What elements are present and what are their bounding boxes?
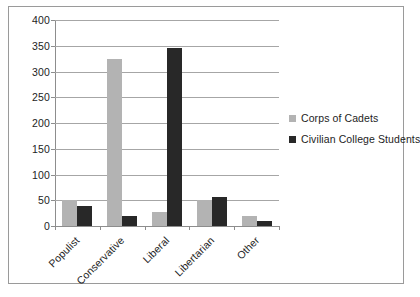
bar-group: [100, 20, 145, 226]
legend-label: Civilian College Students: [301, 133, 420, 145]
legend-label: Corps of Cadets: [301, 112, 378, 124]
y-axis-tick-label: 0: [44, 220, 50, 232]
bar[interactable]: [77, 206, 92, 226]
y-axis-tick-label: 250: [32, 91, 50, 103]
y-axis-tick-label: 300: [32, 66, 50, 78]
y-axis-tick-label: 50: [38, 194, 50, 206]
y-axis-tick-label: 150: [32, 143, 50, 155]
x-axis-tick-mark: [145, 226, 146, 230]
bar-group: [189, 20, 234, 226]
bar-group: [234, 20, 279, 226]
plot-wrapper: 050100150200250300350400 PopulistConserv…: [9, 7, 403, 283]
bar-group: [145, 20, 190, 226]
bar[interactable]: [62, 200, 77, 226]
y-axis-tick-label: 100: [32, 169, 50, 181]
plot-area: [55, 20, 279, 226]
bar[interactable]: [197, 200, 212, 226]
bar[interactable]: [122, 216, 137, 226]
bar[interactable]: [152, 212, 167, 226]
x-axis-category-label: Libertarian: [172, 234, 216, 278]
legend-item[interactable]: Civilian College Students: [289, 133, 405, 145]
x-axis-tick-mark: [279, 226, 280, 230]
x-axis-category-label: Conservative: [74, 234, 127, 287]
gridline: [55, 226, 279, 227]
bar[interactable]: [257, 221, 272, 226]
bar-group: [55, 20, 100, 226]
bar[interactable]: [242, 216, 257, 226]
y-axis-tick-label: 350: [32, 40, 50, 52]
x-axis-tick-mark: [234, 226, 235, 230]
x-axis-category-label: Populist: [46, 234, 81, 269]
chart-figure: 050100150200250300350400 PopulistConserv…: [8, 6, 404, 284]
x-axis-category-label: Other: [234, 234, 261, 261]
legend-swatch-icon: [289, 115, 296, 122]
legend-swatch-icon: [289, 136, 296, 143]
x-axis-tick-mark: [55, 226, 56, 230]
x-axis-tick-mark: [100, 226, 101, 230]
x-axis-tick-mark: [189, 226, 190, 230]
y-axis-tick-labels: 050100150200250300350400: [9, 20, 50, 226]
y-axis-tick-label: 200: [32, 117, 50, 129]
legend-item[interactable]: Corps of Cadets: [289, 112, 405, 124]
y-axis-tick-label: 400: [32, 14, 50, 26]
bar[interactable]: [167, 48, 182, 226]
bar[interactable]: [107, 59, 122, 226]
chart-legend: Corps of CadetsCivilian College Students: [289, 112, 405, 154]
x-axis-category-label: Liberal: [140, 234, 171, 265]
bar[interactable]: [212, 197, 227, 226]
